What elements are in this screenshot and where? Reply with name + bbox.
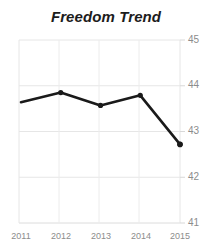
x-tick-label-2013: 2013 bbox=[84, 231, 118, 241]
data-point-2015 bbox=[177, 142, 183, 148]
x-tick-label-2011: 2011 bbox=[4, 231, 38, 241]
data-point-2013 bbox=[138, 93, 143, 98]
line-chart-svg bbox=[0, 0, 212, 248]
y-tick-label-45: 45 bbox=[188, 35, 199, 45]
chart-card: Freedom Trend bbox=[0, 0, 212, 248]
data-point-2012 bbox=[98, 103, 103, 108]
x-tick-label-2014: 2014 bbox=[124, 231, 158, 241]
y-axis-ticks bbox=[180, 40, 185, 223]
x-tick-label-2012: 2012 bbox=[44, 231, 78, 241]
plot-area: 45 44 43 42 41 2011 2012 2013 2014 2015 bbox=[0, 0, 212, 248]
y-tick-label-42: 42 bbox=[188, 172, 199, 182]
y-tick-label-41: 41 bbox=[188, 218, 199, 228]
data-line-freedom-trend bbox=[21, 93, 180, 145]
y-tick-label-44: 44 bbox=[188, 80, 199, 90]
y-tick-label-43: 43 bbox=[188, 126, 199, 136]
data-point-2011 bbox=[58, 90, 63, 95]
x-tick-label-2015: 2015 bbox=[163, 231, 197, 241]
